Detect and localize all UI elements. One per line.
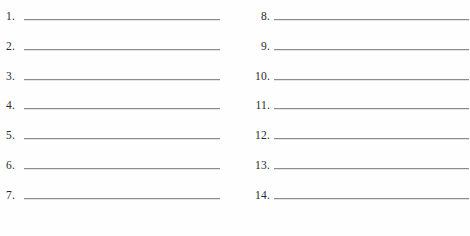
answer-line-12[interactable] [274,129,469,139]
answer-line-14[interactable] [274,189,469,199]
answer-row-6[interactable]: 6. [6,159,220,179]
answer-column-right: 8. 9. 10. 11. 12. 13. 14. [235,0,470,236]
answer-row-13[interactable]: 13. [249,159,463,179]
answer-row-7[interactable]: 7. [6,189,220,209]
answer-line-11[interactable] [274,99,469,109]
row-number-4: 4. [6,99,20,111]
row-number-13: 13. [249,159,270,171]
answer-row-14[interactable]: 14. [249,189,463,209]
row-number-11: 11. [249,99,270,111]
row-number-8: 8. [249,10,270,22]
answer-row-12[interactable]: 12. [249,129,463,149]
row-number-9: 9. [249,40,270,52]
answer-column-left: 1. 2. 3. 4. 5. 6. 7. [0,0,235,236]
answer-sheet: 1. 2. 3. 4. 5. 6. 7. 8. [0,0,470,236]
answer-line-10[interactable] [274,70,469,80]
answer-row-1[interactable]: 1. [6,10,220,30]
row-number-3: 3. [6,70,20,82]
answer-row-11[interactable]: 11. [249,99,463,119]
answer-row-5[interactable]: 5. [6,129,220,149]
row-number-5: 5. [6,129,20,141]
answer-row-2[interactable]: 2. [6,40,220,60]
answer-line-2[interactable] [24,40,220,50]
row-number-6: 6. [6,159,20,171]
answer-row-4[interactable]: 4. [6,99,220,119]
answer-row-8[interactable]: 8. [249,10,463,30]
row-number-14: 14. [249,189,270,201]
answer-line-1[interactable] [24,10,220,20]
row-number-12: 12. [249,129,270,141]
answer-row-3[interactable]: 3. [6,70,220,90]
answer-line-13[interactable] [274,159,469,169]
answer-line-9[interactable] [274,40,469,50]
answer-row-10[interactable]: 10. [249,70,463,90]
row-number-2: 2. [6,40,20,52]
answer-line-5[interactable] [24,129,220,139]
answer-line-7[interactable] [24,189,220,199]
answer-line-8[interactable] [274,10,469,20]
answer-row-9[interactable]: 9. [249,40,463,60]
row-number-10: 10. [249,70,270,82]
answer-line-6[interactable] [24,159,220,169]
answer-line-4[interactable] [24,99,220,109]
row-number-1: 1. [6,10,20,22]
row-number-7: 7. [6,189,20,201]
answer-line-3[interactable] [24,70,220,80]
